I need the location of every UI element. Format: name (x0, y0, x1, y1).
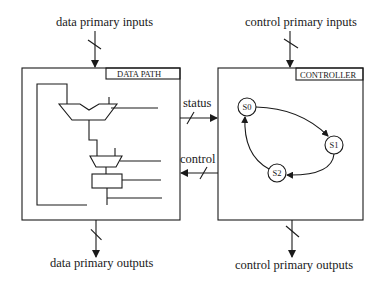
transition-s2-s0 (245, 117, 269, 169)
controller-box (218, 68, 363, 220)
control-label: control (180, 153, 215, 166)
register-shape (92, 174, 122, 188)
control-primary-inputs-label: control primary inputs (245, 16, 357, 29)
mux-shape (90, 156, 122, 167)
diagram-canvas (0, 0, 382, 284)
transition-s1-s2 (287, 154, 334, 175)
state-s0-label: S0 (243, 103, 252, 112)
control-input-bus-slash (284, 39, 298, 48)
feedback-wire (37, 84, 87, 205)
state-s2-label: S2 (273, 169, 282, 178)
alu-to-mux-wire (89, 120, 97, 156)
datapath-box (22, 68, 180, 220)
controller-title: CONTROLLER (300, 71, 356, 80)
status-label: status (183, 97, 211, 110)
control-primary-outputs-label: control primary outputs (235, 259, 353, 272)
transition-s0-s1 (256, 107, 328, 136)
state-s1-label: S1 (330, 141, 339, 150)
data-primary-inputs-label: data primary inputs (56, 16, 153, 29)
alu-shape (59, 104, 117, 120)
datapath-title: DATA PATH (117, 70, 161, 79)
data-primary-outputs-label: data primary outputs (50, 257, 153, 270)
